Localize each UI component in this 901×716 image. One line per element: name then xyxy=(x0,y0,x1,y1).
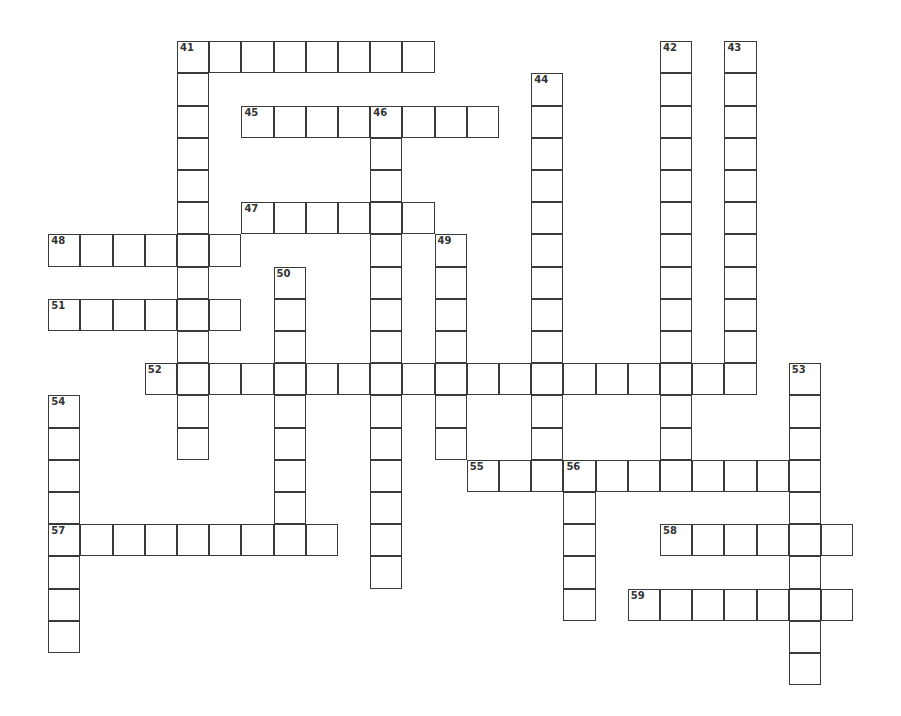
crossword-cell[interactable] xyxy=(724,170,756,202)
crossword-cell[interactable] xyxy=(274,428,306,460)
crossword-cell[interactable] xyxy=(145,524,177,556)
crossword-cell[interactable]: 46 xyxy=(370,106,402,138)
crossword-cell[interactable] xyxy=(724,460,756,492)
crossword-cell[interactable] xyxy=(177,73,209,105)
crossword-cell[interactable]: 54 xyxy=(48,395,80,427)
crossword-cell[interactable] xyxy=(274,202,306,234)
crossword-cell[interactable] xyxy=(113,524,145,556)
crossword-cell[interactable] xyxy=(724,331,756,363)
crossword-cell[interactable] xyxy=(531,267,563,299)
crossword-cell[interactable] xyxy=(531,234,563,266)
crossword-cell[interactable] xyxy=(724,267,756,299)
crossword-cell[interactable]: 45 xyxy=(241,106,273,138)
crossword-cell[interactable] xyxy=(660,267,692,299)
crossword-cell[interactable] xyxy=(370,363,402,395)
crossword-cell[interactable] xyxy=(563,363,595,395)
crossword-cell[interactable]: 51 xyxy=(48,299,80,331)
crossword-cell[interactable]: 55 xyxy=(467,460,499,492)
crossword-cell[interactable] xyxy=(177,524,209,556)
crossword-cell[interactable] xyxy=(306,202,338,234)
crossword-cell[interactable]: 48 xyxy=(48,234,80,266)
crossword-cell[interactable] xyxy=(789,653,821,685)
crossword-cell[interactable] xyxy=(370,202,402,234)
crossword-cell[interactable] xyxy=(531,106,563,138)
crossword-cell[interactable] xyxy=(435,363,467,395)
crossword-cell[interactable]: 44 xyxy=(531,73,563,105)
crossword-cell[interactable] xyxy=(241,363,273,395)
crossword-cell[interactable] xyxy=(467,106,499,138)
crossword-cell[interactable] xyxy=(660,202,692,234)
crossword-cell[interactable] xyxy=(660,331,692,363)
crossword-cell[interactable] xyxy=(692,363,724,395)
crossword-cell[interactable] xyxy=(660,170,692,202)
crossword-cell[interactable] xyxy=(660,299,692,331)
crossword-cell[interactable] xyxy=(789,621,821,653)
crossword-cell[interactable] xyxy=(177,395,209,427)
crossword-cell[interactable] xyxy=(724,106,756,138)
crossword-cell[interactable] xyxy=(821,524,853,556)
crossword-cell[interactable] xyxy=(692,589,724,621)
crossword-cell[interactable] xyxy=(402,106,434,138)
crossword-cell[interactable] xyxy=(531,428,563,460)
crossword-cell[interactable] xyxy=(660,395,692,427)
crossword-cell[interactable] xyxy=(177,234,209,266)
crossword-cell[interactable] xyxy=(596,363,628,395)
crossword-cell[interactable] xyxy=(338,41,370,73)
crossword-cell[interactable] xyxy=(531,460,563,492)
crossword-cell[interactable] xyxy=(531,395,563,427)
crossword-cell[interactable] xyxy=(306,524,338,556)
crossword-cell[interactable] xyxy=(241,524,273,556)
crossword-cell[interactable]: 57 xyxy=(48,524,80,556)
crossword-cell[interactable] xyxy=(757,460,789,492)
crossword-cell[interactable] xyxy=(724,73,756,105)
crossword-cell[interactable] xyxy=(48,492,80,524)
crossword-cell[interactable] xyxy=(209,299,241,331)
crossword-cell[interactable] xyxy=(821,589,853,621)
crossword-cell[interactable] xyxy=(789,556,821,588)
crossword-cell[interactable] xyxy=(370,460,402,492)
crossword-cell[interactable] xyxy=(435,331,467,363)
crossword-cell[interactable] xyxy=(113,234,145,266)
crossword-cell[interactable] xyxy=(435,395,467,427)
crossword-cell[interactable] xyxy=(274,106,306,138)
crossword-cell[interactable]: 58 xyxy=(660,524,692,556)
crossword-cell[interactable] xyxy=(274,331,306,363)
crossword-cell[interactable] xyxy=(789,428,821,460)
crossword-cell[interactable] xyxy=(402,41,434,73)
crossword-cell[interactable] xyxy=(274,524,306,556)
crossword-cell[interactable] xyxy=(306,363,338,395)
crossword-cell[interactable] xyxy=(338,363,370,395)
crossword-cell[interactable] xyxy=(274,460,306,492)
crossword-cell[interactable] xyxy=(370,331,402,363)
crossword-cell[interactable] xyxy=(531,138,563,170)
crossword-cell[interactable] xyxy=(531,299,563,331)
crossword-cell[interactable] xyxy=(724,363,756,395)
crossword-cell[interactable] xyxy=(177,299,209,331)
crossword-cell[interactable] xyxy=(435,267,467,299)
crossword-cell[interactable]: 41 xyxy=(177,41,209,73)
crossword-cell[interactable] xyxy=(660,106,692,138)
crossword-cell[interactable] xyxy=(660,460,692,492)
crossword-cell[interactable] xyxy=(660,589,692,621)
crossword-cell[interactable] xyxy=(338,106,370,138)
crossword-cell[interactable] xyxy=(435,299,467,331)
crossword-cell[interactable] xyxy=(660,138,692,170)
crossword-cell[interactable] xyxy=(48,621,80,653)
crossword-cell[interactable] xyxy=(499,460,531,492)
crossword-cell[interactable] xyxy=(628,460,660,492)
crossword-cell[interactable] xyxy=(370,138,402,170)
crossword-cell[interactable] xyxy=(563,492,595,524)
crossword-cell[interactable] xyxy=(563,589,595,621)
crossword-cell[interactable] xyxy=(370,170,402,202)
crossword-cell[interactable] xyxy=(757,589,789,621)
crossword-cell[interactable] xyxy=(306,41,338,73)
crossword-cell[interactable] xyxy=(789,395,821,427)
crossword-cell[interactable] xyxy=(274,41,306,73)
crossword-cell[interactable] xyxy=(48,460,80,492)
crossword-cell[interactable] xyxy=(80,299,112,331)
crossword-cell[interactable]: 47 xyxy=(241,202,273,234)
crossword-cell[interactable] xyxy=(177,428,209,460)
crossword-cell[interactable] xyxy=(628,363,660,395)
crossword-cell[interactable] xyxy=(241,41,273,73)
crossword-cell[interactable] xyxy=(531,202,563,234)
